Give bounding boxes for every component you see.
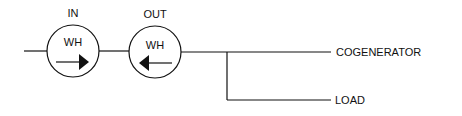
meter-out: OUT WH — [129, 8, 181, 78]
meter-out-label: OUT — [143, 8, 167, 20]
load-label: LOAD — [335, 94, 365, 106]
meter-in-label: IN — [68, 7, 79, 19]
cogenerator-label: COGENERATOR — [336, 46, 421, 58]
meter-in: IN WH — [47, 7, 99, 77]
meter-out-circle — [129, 26, 181, 78]
meter-in-circle — [47, 25, 99, 77]
meter-in-wh-label: WH — [64, 36, 82, 48]
meter-out-wh-label: WH — [146, 39, 164, 51]
metering-diagram: IN WH OUT WH COGENERATOR LOAD — [0, 0, 462, 116]
